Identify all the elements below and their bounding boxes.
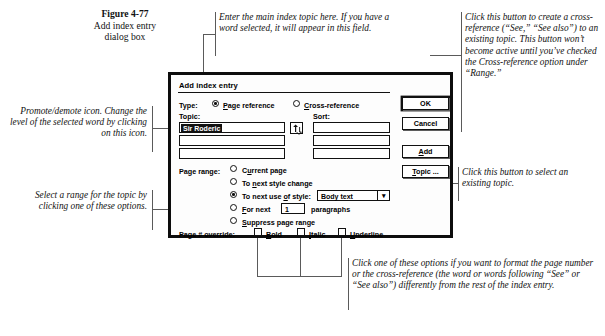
leader-line	[257, 276, 342, 277]
radio-to-next-use-of-style[interactable]	[230, 191, 237, 198]
radio-for-next[interactable]	[230, 204, 237, 211]
promote-demote-icon[interactable]	[290, 122, 303, 134]
leader-line	[257, 232, 258, 276]
annotation-promote-demote: Promote/demote icon. Change the level of…	[6, 106, 147, 140]
sort-label: Sort:	[313, 112, 330, 121]
sort-input-3[interactable]	[313, 148, 390, 159]
paragraphs-label: paragraphs	[311, 205, 350, 214]
annotation-page-range: Select a range for the topic by clicking…	[6, 190, 147, 212]
topic-input-3[interactable]	[179, 148, 285, 159]
annotation-overrides: Click one of these options if you want t…	[352, 258, 596, 292]
leader-line	[341, 232, 342, 276]
chevron-down-icon[interactable]: ▾	[377, 191, 389, 200]
annotation-cross-reference: Click this button to create a cross-refe…	[465, 12, 599, 79]
paragraphs-input-value: 1	[285, 205, 289, 214]
annotation-topic-button: Click this button to select an existing …	[462, 167, 594, 189]
radio-to-next-style-change-label: To next style change	[242, 179, 313, 188]
annotation-topic-field: Enter the main index topic here. If you …	[219, 12, 391, 34]
leader-line	[461, 12, 462, 132]
radio-current-page-label: Current page	[242, 166, 287, 175]
leader-line	[203, 34, 216, 35]
figure-caption-line3: dialog box	[105, 31, 146, 42]
ok-button[interactable]: OK	[402, 97, 449, 110]
type-label: Type:	[179, 101, 198, 110]
topic-input-1[interactable]: Sir Roderic	[179, 122, 285, 133]
page-range-label: Page range:	[179, 167, 220, 176]
radio-page-reference-label: Page reference	[223, 101, 275, 110]
radio-page-reference[interactable]	[212, 100, 219, 107]
checkbox-italic-label: Italic	[309, 230, 325, 239]
radio-cross-reference-label: Cross-reference	[304, 101, 359, 110]
topic-input-value: Sir Roderic	[181, 124, 222, 133]
dialog-title: Add index entry	[179, 81, 238, 90]
leader-line	[430, 55, 461, 56]
checkbox-bold-label: Bold	[266, 230, 282, 239]
cancel-button[interactable]: Cancel	[402, 117, 449, 130]
radio-to-next-style-change[interactable]	[230, 178, 237, 185]
style-select[interactable]: Body text ▾	[317, 190, 390, 201]
leader-line	[300, 232, 301, 276]
topic-button[interactable]: Topic ...	[402, 165, 449, 178]
title-divider	[178, 92, 390, 93]
promote-demote-glyph	[292, 124, 303, 135]
checkbox-underline[interactable]	[338, 228, 346, 236]
add-button[interactable]: Add	[402, 145, 449, 158]
figure-caption: Figure 4-77 Add index entry dialog box	[62, 8, 188, 43]
topic-label: Topic:	[179, 112, 200, 121]
radio-suppress-page-range-label: Suppress page range	[242, 218, 315, 227]
add-index-entry-dialog: Add index entry Type: Page reference Cro…	[168, 72, 453, 238]
sort-input-2[interactable]	[313, 135, 390, 146]
style-select-value: Body text	[321, 192, 353, 201]
topic-input-2[interactable]	[179, 135, 285, 146]
radio-current-page[interactable]	[230, 165, 237, 172]
figure-caption-line2: Add index entry	[94, 20, 156, 31]
radio-cross-reference[interactable]	[293, 100, 300, 107]
leader-line	[152, 106, 153, 152]
figure-number: Figure 4-77	[102, 8, 149, 19]
radio-for-next-label: For next	[242, 205, 270, 214]
checkbox-underline-label: Underline	[350, 230, 383, 239]
leader-line	[152, 190, 153, 230]
leader-line	[348, 258, 349, 310]
page-override-label: Page # override:	[179, 230, 235, 239]
radio-to-next-use-of-style-label: To next use of style:	[242, 192, 311, 201]
paragraphs-input[interactable]: 1	[281, 203, 305, 214]
sort-input-1[interactable]	[313, 122, 390, 133]
checkbox-bold[interactable]	[254, 228, 262, 236]
radio-suppress-page-range[interactable]	[230, 217, 237, 224]
checkbox-italic[interactable]	[297, 228, 305, 236]
leader-line	[458, 167, 459, 201]
